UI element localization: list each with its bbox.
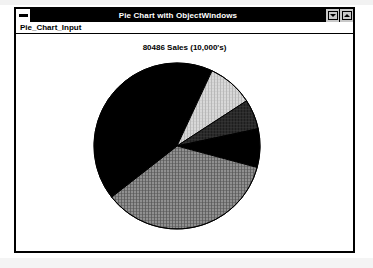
menu-bar: Pie_Chart_Input	[16, 22, 353, 34]
minimize-icon	[328, 11, 338, 20]
pie-slices	[94, 63, 260, 229]
maximize-icon	[342, 11, 352, 20]
application-window: Pie Chart with ObjectWindows Pi	[14, 7, 355, 253]
chart-title: 80486 Sales (10,000's)	[16, 43, 353, 52]
window-title: Pie Chart with ObjectWindows	[31, 9, 325, 22]
desktop-backdrop: Pie Chart with ObjectWindows Pi	[0, 0, 373, 268]
minimize-button[interactable]	[325, 9, 339, 22]
window-buttons	[325, 9, 353, 22]
maximize-button[interactable]	[339, 9, 353, 22]
system-menu-glyph	[19, 13, 28, 18]
title-bar: Pie Chart with ObjectWindows	[16, 9, 353, 22]
pie-chart-svg	[91, 61, 263, 231]
client-area: 80486 Sales (10,000's)	[16, 34, 353, 251]
desktop-top-band	[0, 0, 373, 5]
desktop-bottom-band	[0, 258, 373, 268]
pie-chart	[91, 61, 263, 231]
menu-item-pie-chart-input[interactable]: Pie_Chart_Input	[16, 22, 85, 34]
system-menu-icon[interactable]	[16, 9, 31, 22]
